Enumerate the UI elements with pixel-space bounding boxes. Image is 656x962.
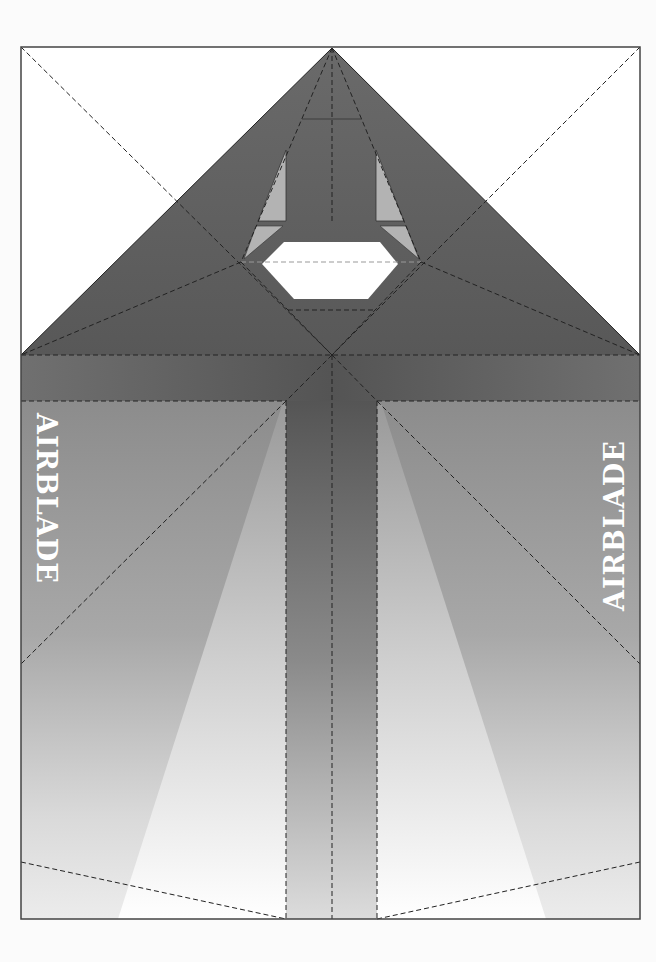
brand-label-right: AIRBLADE (601, 440, 628, 611)
fold-band (21, 355, 640, 401)
airplane-template-sheet (0, 0, 656, 962)
brand-label-left: AIRBLADE (33, 413, 60, 584)
